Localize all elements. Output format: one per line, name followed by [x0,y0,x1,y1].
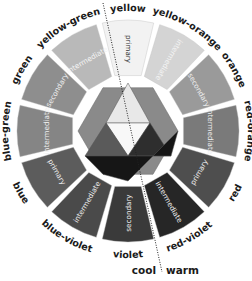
color-name-label-red: red [226,182,244,203]
segment-type-label: primary [124,35,133,64]
color-name-label-blue: blue [11,180,32,206]
segment-type-label: secondary [124,194,133,232]
color-name-label-red-orange: red-orange [242,99,252,163]
color-wheel-diagram: primaryintermediatesecondaryintermediate… [0,0,252,281]
wheel-center-hexagon [78,83,178,181]
cool-label: cool [132,264,156,276]
color-name-label-violet: violet [113,248,144,260]
segment-type-label: intermediate [42,107,51,154]
segment-type-label: intermediate [206,108,215,155]
color-name-label-blue-green: blue-green [0,100,14,163]
color-name-label-yellow: yellow [110,2,147,14]
warm-label: warm [166,264,199,276]
